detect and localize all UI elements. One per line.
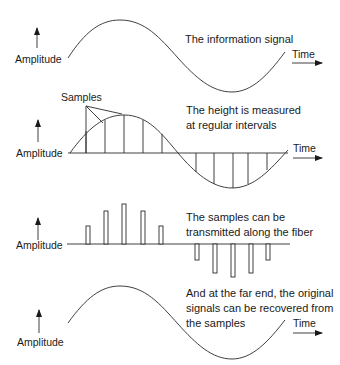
samples-pointer xyxy=(86,106,122,114)
samples-annotation: Samples xyxy=(61,91,102,103)
caption-line-3: the samples xyxy=(186,317,246,329)
panel-information-signal: Amplitude The information signal Time xyxy=(15,20,322,92)
sampling-diagram: Amplitude The information signal Time Sa… xyxy=(0,0,340,365)
time-label: Time xyxy=(293,317,316,329)
time-label: Time xyxy=(292,48,315,60)
amplitude-label: Amplitude xyxy=(16,239,63,251)
caption: The information signal xyxy=(185,33,293,45)
samples-pointer xyxy=(86,106,103,123)
caption-line-2: transmitted along the fiber xyxy=(186,226,314,238)
time-label: Time xyxy=(293,142,316,154)
caption-line-1: The samples can be xyxy=(186,211,285,223)
amplitude-label: Amplitude xyxy=(15,53,62,65)
caption-line-2: signals can be recovered from xyxy=(186,302,333,314)
caption-line-2: at regular intervals xyxy=(186,119,277,131)
amplitude-label: Amplitude xyxy=(16,147,63,159)
signal-wave xyxy=(68,20,285,92)
caption-line-1: And at the far end, the original xyxy=(186,287,333,299)
panel-recovered-signal: Amplitude And at the far end, the origin… xyxy=(17,286,333,359)
panel-sampling: Samples Amplitude The height is measured… xyxy=(16,91,322,188)
panel-transmitted-samples: Amplitude The samples can be transmitted… xyxy=(16,204,314,277)
amplitude-label: Amplitude xyxy=(17,336,64,348)
caption-line-1: The height is measured xyxy=(186,104,301,116)
